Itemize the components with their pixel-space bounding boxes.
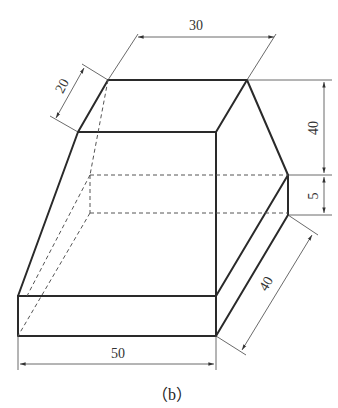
- isometric-drawing: 30 20 40 5 40 50 （b）: [0, 0, 338, 408]
- dim-label-upper-height: 40: [306, 121, 321, 135]
- visible-edges: [18, 80, 288, 336]
- dim-label-top-width: 30: [189, 18, 203, 33]
- dimension-step-height: 5: [288, 177, 332, 215]
- dimension-base-width: 50: [18, 336, 216, 370]
- dimension-base-depth: 40: [216, 215, 318, 355]
- dim-label-base-depth: 40: [256, 274, 276, 294]
- hidden-edges: [18, 80, 288, 336]
- dim-label-step-height: 5: [306, 193, 321, 200]
- figure-caption: （b）: [152, 386, 192, 403]
- dimension-upper-height: 40: [247, 80, 332, 175]
- dim-label-base-width: 50: [111, 346, 125, 361]
- dimension-top-width: 30: [108, 18, 276, 80]
- dimension-top-depth: 20: [50, 64, 108, 132]
- dim-label-top-depth: 20: [52, 76, 72, 95]
